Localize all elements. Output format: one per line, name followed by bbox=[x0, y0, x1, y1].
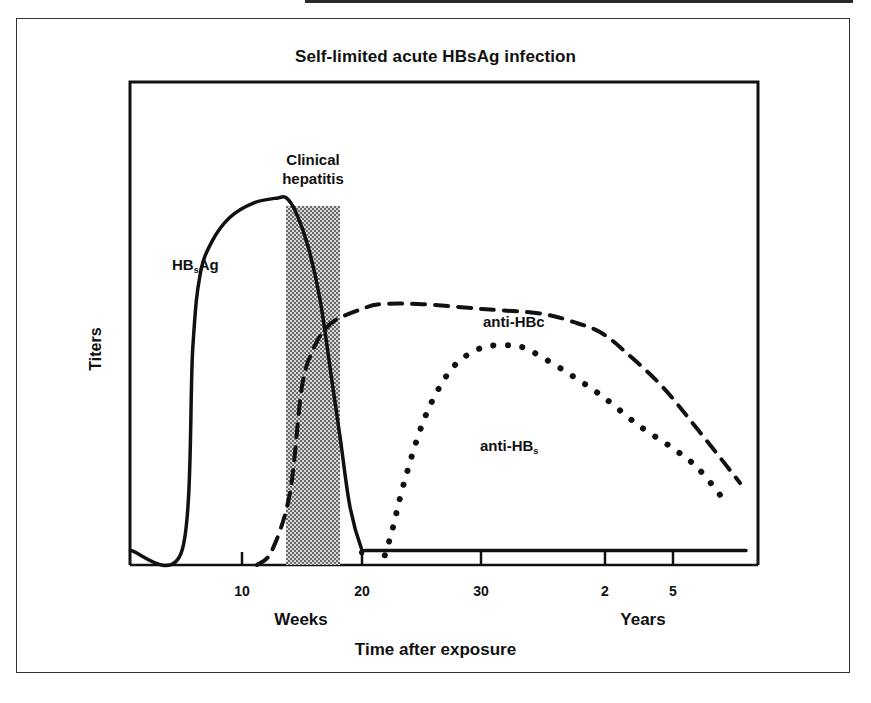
hbsag-curve bbox=[130, 197, 746, 566]
x-tick-label-30-weeks: 30 bbox=[473, 583, 489, 599]
anti-hbs-label-sub: s bbox=[533, 446, 538, 456]
anti-hbs-series-label: anti-HBs bbox=[480, 437, 538, 456]
shade-label-line1: Clinical bbox=[282, 150, 344, 169]
plot-frame bbox=[130, 82, 758, 565]
series-layer bbox=[130, 197, 746, 566]
x-tick-label-20-weeks: 20 bbox=[354, 583, 370, 599]
x-tick-label-5-years: 5 bbox=[669, 583, 677, 599]
years-unit-label: Years bbox=[620, 610, 665, 630]
x-tick-label-10-weeks: 10 bbox=[234, 583, 250, 599]
x-tick-label-2-years: 2 bbox=[601, 583, 609, 599]
x-axis-label: Time after exposure bbox=[0, 640, 871, 660]
anti-hbs-curve bbox=[385, 345, 722, 555]
hbsag-label-suffix: Ag bbox=[199, 256, 219, 273]
hbsag-series-label: HBsAg bbox=[172, 256, 219, 275]
anti-hbs-label-main: anti-HB bbox=[480, 437, 533, 454]
hbsag-label-main: HB bbox=[172, 256, 194, 273]
y-axis-label: Titers bbox=[87, 319, 105, 379]
plot-area bbox=[0, 0, 871, 703]
anti-hbc-series-label: anti-HBc bbox=[483, 313, 545, 330]
clinical-hepatitis-label: Clinical hepatitis bbox=[282, 150, 344, 188]
weeks-unit-label: Weeks bbox=[274, 610, 328, 630]
shade-label-line2: hepatitis bbox=[282, 169, 344, 188]
